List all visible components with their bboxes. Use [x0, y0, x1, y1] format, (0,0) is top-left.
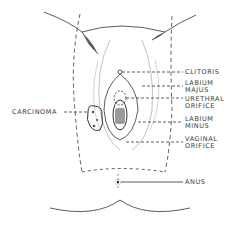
- label-labium-minus-line2: MINUS: [185, 123, 209, 130]
- label-vaginal-line2: ORIFICE: [185, 143, 215, 150]
- label-labium-majus-line2: MAJUS: [185, 87, 209, 94]
- label-clitoris: CLITORIS: [185, 69, 220, 76]
- label-carcinoma: CARCINOMA: [12, 109, 57, 116]
- vulvar-carcinoma-diagram: CLITORIS LABIUM MAJUS URETHRAL ORIFICE L…: [0, 0, 237, 229]
- label-anus: ANUS: [185, 179, 206, 186]
- label-urethral-line2: ORIFICE: [185, 103, 215, 110]
